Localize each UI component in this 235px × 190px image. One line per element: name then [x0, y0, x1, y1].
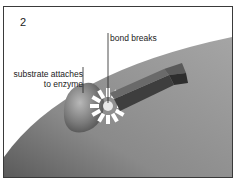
substrate-label-line2: to enzyme: [10, 79, 83, 89]
diagram-frame: 2 bond breaks substrate attaches to enzy…: [3, 6, 233, 178]
substrate-label-line1: substrate attaches: [10, 69, 83, 79]
step-number: 2: [20, 16, 26, 28]
bond-breaks-label: bond breaks: [110, 33, 157, 43]
substrate-label: substrate attaches to enzyme: [10, 69, 83, 89]
